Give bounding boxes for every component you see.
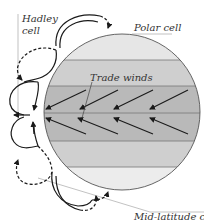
- band-trade-south: [40, 113, 204, 141]
- label-hadley-cell-line2: cell: [22, 25, 40, 36]
- label-mid-latitude-cell: Mid-latitude cell: [134, 211, 204, 222]
- label-trade-winds: Trade winds: [90, 72, 153, 83]
- label-hadley-cell-line1: Hadley: [22, 13, 58, 24]
- globe: [40, 30, 204, 197]
- band-mid-latitude-south: [40, 141, 204, 167]
- label-polar-cell: Polar cell: [134, 22, 181, 33]
- band-polar-south: [40, 167, 204, 197]
- band-polar-north: [40, 30, 204, 60]
- band-trade-north: [40, 86, 204, 113]
